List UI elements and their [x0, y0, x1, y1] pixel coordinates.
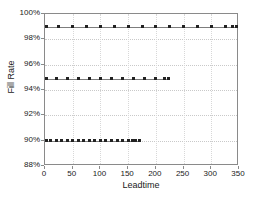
- data-point-marker: [60, 139, 63, 142]
- data-point-marker: [77, 139, 80, 142]
- data-point-marker: [110, 77, 113, 80]
- data-point-marker: [182, 25, 185, 28]
- y-tick-mark: [41, 140, 44, 141]
- data-point-marker: [45, 139, 48, 142]
- data-point-marker: [88, 139, 91, 142]
- data-point-marker: [154, 77, 157, 80]
- x-axis: 050100150200250300350: [44, 166, 238, 180]
- x-tick-label: 300: [195, 169, 225, 178]
- data-point-marker: [99, 139, 102, 142]
- y-tick-label: 88%: [2, 161, 40, 169]
- plot-area: [44, 13, 238, 165]
- data-point-marker: [110, 139, 113, 142]
- data-point-marker: [55, 77, 58, 80]
- fill-rate-chart: 88%90%92%94%96%98%100% 05010015020025030…: [0, 0, 255, 200]
- y-tick-mark: [41, 64, 44, 65]
- data-point-marker: [99, 25, 102, 28]
- y-axis-title: Fill Rate: [6, 42, 16, 112]
- data-point-marker: [93, 139, 96, 142]
- gridline-horizontal: [45, 65, 237, 66]
- data-point-marker: [132, 77, 135, 80]
- data-point-marker: [138, 139, 141, 142]
- data-point-marker: [231, 25, 234, 28]
- y-tick-mark: [41, 114, 44, 115]
- gridline-horizontal: [45, 115, 237, 116]
- x-tick-label: 150: [112, 169, 142, 178]
- data-point-marker: [224, 25, 227, 28]
- data-point-marker: [88, 77, 91, 80]
- data-point-marker: [235, 25, 238, 28]
- x-tick-label: 50: [57, 169, 87, 178]
- y-tick-mark: [41, 38, 44, 39]
- data-point-marker: [45, 25, 48, 28]
- y-tick-mark: [41, 89, 44, 90]
- gridline-vertical: [184, 14, 185, 164]
- data-point-marker: [55, 139, 58, 142]
- x-tick-label: 100: [84, 169, 114, 178]
- series-line: [46, 79, 168, 80]
- data-point-marker: [121, 77, 124, 80]
- data-point-marker: [113, 25, 116, 28]
- y-tick-label: 90%: [2, 136, 40, 144]
- x-axis-title: Leadtime: [44, 180, 238, 190]
- data-point-marker: [127, 25, 130, 28]
- x-tick-label: 200: [140, 169, 170, 178]
- data-point-marker: [116, 139, 119, 142]
- data-point-marker: [71, 139, 74, 142]
- data-point-marker: [168, 25, 171, 28]
- data-point-marker: [66, 77, 69, 80]
- data-point-marker: [154, 25, 157, 28]
- data-point-marker: [45, 77, 48, 80]
- data-point-marker: [121, 139, 124, 142]
- y-tick-label: 100%: [2, 9, 40, 17]
- gridline-horizontal: [45, 39, 237, 40]
- data-point-marker: [127, 139, 130, 142]
- data-point-marker: [163, 77, 166, 80]
- data-point-marker: [210, 25, 213, 28]
- data-point-marker: [167, 77, 170, 80]
- data-point-marker: [71, 25, 74, 28]
- gridline-horizontal: [45, 90, 237, 91]
- data-point-marker: [57, 25, 60, 28]
- y-tick-mark: [41, 13, 44, 14]
- x-tick-label: 250: [168, 169, 198, 178]
- data-point-marker: [85, 25, 88, 28]
- data-point-marker: [49, 139, 52, 142]
- data-point-marker: [196, 25, 199, 28]
- data-point-marker: [141, 25, 144, 28]
- x-tick-label: 350: [223, 169, 253, 178]
- data-point-marker: [143, 77, 146, 80]
- data-point-marker: [77, 77, 80, 80]
- gridline-vertical: [211, 14, 212, 164]
- data-point-marker: [82, 139, 85, 142]
- data-point-marker: [104, 139, 107, 142]
- x-tick-label: 0: [29, 169, 59, 178]
- data-point-marker: [66, 139, 69, 142]
- gridline-vertical: [156, 14, 157, 164]
- data-point-marker: [99, 77, 102, 80]
